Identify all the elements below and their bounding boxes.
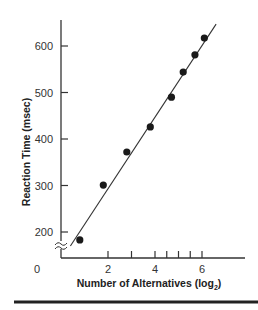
data-point — [76, 236, 83, 243]
y-tick-label: 500 — [35, 87, 53, 99]
data-point — [123, 148, 130, 155]
chart: 2003004005006000246 Reaction Time (msec)… — [0, 0, 258, 310]
axis-break-upper — [55, 243, 67, 246]
x-tick-label: 2 — [105, 263, 111, 275]
x-axis-title-suffix: ) — [218, 277, 222, 289]
y-tick-label: 600 — [35, 40, 53, 52]
data-point — [180, 68, 187, 75]
data-point — [100, 181, 107, 188]
x-axis-title: Number of Alternatives (log2) — [77, 277, 222, 291]
x-tick-label: 6 — [199, 263, 205, 275]
axes — [55, 20, 245, 258]
x-tick-label: 4 — [152, 263, 158, 275]
data-point — [201, 34, 208, 41]
data-point — [147, 123, 154, 130]
data-point — [168, 94, 175, 101]
x-tick-label: 0 — [34, 263, 40, 275]
axis-break-lower — [55, 247, 67, 250]
data-point — [191, 51, 198, 58]
y-axis-title: Reaction Time (msec) — [20, 98, 32, 206]
y-tick-label: 200 — [35, 226, 53, 238]
y-tick-label: 400 — [35, 133, 53, 145]
tick-labels: 2003004005006000246 — [34, 40, 205, 275]
x-axis-title-main: Number of Alternatives (log — [77, 277, 214, 289]
y-tick-label: 300 — [35, 180, 53, 192]
